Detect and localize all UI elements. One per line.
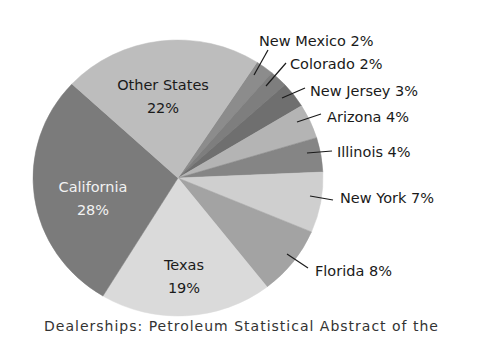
callout-label-colorado: Colorado 2% [290, 56, 382, 72]
chart-caption: Dealerships: Petroleum Statistical Abstr… [0, 318, 483, 338]
slice-label-california-name: California [59, 179, 128, 195]
callout-label-new-york: New York 7% [340, 190, 434, 206]
callout-label-new-mexico: New Mexico 2% [259, 33, 373, 49]
callout-label-arizona: Arizona 4% [327, 109, 409, 125]
callout-label-florida: Florida 8% [315, 263, 392, 279]
slice-label-other-states-value: 22% [147, 100, 179, 116]
callout-label-new-jersey: New Jersey 3% [310, 83, 418, 99]
slice-label-california-value: 28% [77, 202, 109, 218]
callout-label-illinois: Illinois 4% [337, 144, 411, 160]
slice-label-texas-name: Texas [163, 257, 204, 273]
slice-label-texas-value: 19% [168, 280, 200, 296]
slice-label-other-states-name: Other States [117, 77, 209, 93]
